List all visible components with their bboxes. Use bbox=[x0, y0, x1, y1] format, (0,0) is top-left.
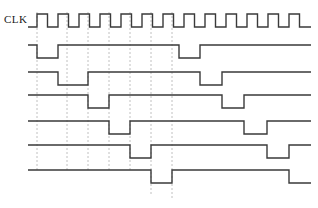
timing-diagram: CLK bbox=[0, 0, 318, 208]
waveform-group bbox=[28, 14, 311, 183]
waveform-q3 bbox=[28, 121, 311, 134]
timing-waveform-canvas bbox=[0, 0, 318, 208]
waveform-q4 bbox=[28, 145, 311, 158]
waveform-q0 bbox=[28, 45, 311, 58]
clock-waveform bbox=[28, 14, 311, 27]
waveform-q1 bbox=[28, 72, 311, 85]
gridline-group bbox=[37, 12, 172, 200]
waveform-q5 bbox=[28, 170, 311, 183]
waveform-q2 bbox=[28, 95, 311, 108]
